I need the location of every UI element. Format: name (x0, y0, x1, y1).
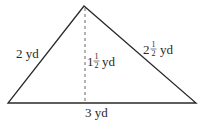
triangle-diagram: 2 yd 1 1 2 yd 2 1 2 yd 3 yd (0, 0, 201, 123)
svg-text:yd: yd (102, 54, 116, 69)
svg-text:1: 1 (152, 40, 156, 49)
left-side-label: 2 yd (16, 46, 39, 61)
height-label: 1 1 2 yd (87, 52, 116, 70)
right-side-label: 2 1 2 yd (143, 40, 174, 58)
svg-text:2: 2 (143, 42, 150, 57)
base-label: 3 yd (85, 105, 108, 120)
svg-text:2: 2 (152, 49, 156, 58)
svg-text:1: 1 (95, 52, 99, 61)
svg-text:yd: yd (160, 42, 174, 57)
svg-text:2: 2 (95, 61, 99, 70)
svg-text:1: 1 (87, 54, 94, 69)
